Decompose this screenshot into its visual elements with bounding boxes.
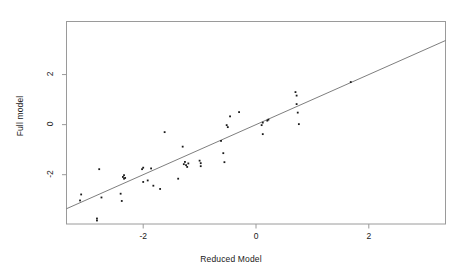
data-point <box>185 164 187 166</box>
y-tick-label: -2 <box>44 169 56 179</box>
data-point <box>120 193 122 195</box>
scatter-plot-figure: Reduced Model Full model -202 -202 <box>0 0 462 277</box>
plot-canvas <box>0 0 462 277</box>
data-point <box>164 131 166 133</box>
data-point <box>262 133 264 135</box>
data-point <box>262 122 264 124</box>
data-point <box>122 176 124 178</box>
x-tick-label: 0 <box>254 231 259 241</box>
data-point <box>150 168 152 170</box>
data-point <box>295 91 297 93</box>
data-point <box>200 162 202 164</box>
data-point <box>296 95 298 97</box>
data-point <box>182 146 184 148</box>
data-point <box>98 168 100 170</box>
y-tick-label: 2 <box>44 69 56 79</box>
data-point <box>199 160 201 162</box>
data-point <box>183 163 185 165</box>
data-point <box>124 177 126 179</box>
data-point <box>152 185 154 187</box>
identity-reference-line <box>67 41 446 209</box>
data-point <box>200 165 202 167</box>
data-point <box>79 200 81 202</box>
y-tick-label: 0 <box>44 119 56 129</box>
data-point <box>296 103 298 105</box>
data-point <box>96 218 98 220</box>
data-point <box>187 163 189 165</box>
data-point <box>96 220 98 222</box>
x-tick-label: -2 <box>139 231 147 241</box>
x-tick-label: 2 <box>366 231 371 241</box>
y-axis-title: Full model <box>15 56 25 176</box>
data-point <box>222 152 224 154</box>
data-point <box>268 119 270 121</box>
data-point <box>142 167 144 169</box>
y-axis-ticks <box>62 75 67 175</box>
data-point <box>226 124 228 126</box>
data-point <box>350 81 352 83</box>
data-point <box>229 115 231 117</box>
data-point <box>184 161 186 163</box>
data-point <box>80 194 82 196</box>
data-point <box>121 200 123 202</box>
plot-panel-border <box>67 22 446 225</box>
data-point <box>101 197 103 199</box>
data-point <box>123 174 125 176</box>
data-point <box>142 181 144 183</box>
data-point <box>186 166 188 168</box>
data-point <box>159 188 161 190</box>
x-axis-ticks <box>143 224 369 229</box>
data-point <box>177 178 179 180</box>
data-point <box>238 111 240 113</box>
data-point <box>261 124 263 126</box>
data-point <box>297 112 299 114</box>
data-point <box>224 161 226 163</box>
scatter-points <box>79 81 352 221</box>
x-axis-title: Reduced Model <box>0 254 462 264</box>
data-point <box>298 123 300 125</box>
data-point <box>227 126 229 128</box>
data-point <box>220 140 222 142</box>
data-point <box>147 180 149 182</box>
identity-line <box>67 41 446 209</box>
